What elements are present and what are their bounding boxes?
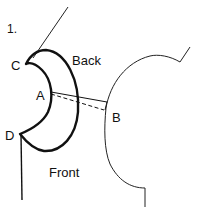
front-side-line [21, 134, 22, 200]
label-d: D [5, 129, 14, 142]
sleeve-pattern-diagram [0, 0, 199, 207]
label-a: A [36, 89, 45, 102]
label-b: B [112, 111, 121, 124]
label-front: Front [49, 166, 79, 179]
sleeve-outline [105, 47, 190, 207]
label-c: C [11, 59, 20, 72]
armhole-piece [20, 50, 78, 151]
figure-number: 1. [7, 23, 17, 35]
label-back: Back [72, 54, 101, 67]
